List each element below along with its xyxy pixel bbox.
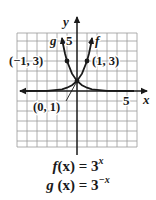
equation-g-body: (x) = 3: [54, 177, 99, 193]
equation-g-name: g: [46, 177, 54, 193]
y-axis-label: y: [61, 14, 69, 29]
point-1-3: [85, 59, 90, 64]
point-label-neg1-3: (−1, 3): [9, 54, 43, 68]
equation-g: g (x) = 3−x: [0, 176, 156, 194]
equation-g-exponent: −x: [99, 174, 110, 185]
curve-f-label: f: [95, 33, 101, 48]
point-label-0-1: (0, 1): [33, 100, 60, 114]
point-neg1-3: [65, 59, 70, 64]
equation-f-body: (x) = 3: [57, 158, 98, 174]
y-tick-5: 5: [66, 33, 73, 48]
equation-f-exponent: x: [99, 155, 104, 166]
curve-g-label: g: [49, 33, 57, 48]
equation-f: f(x) = 3x: [0, 157, 156, 175]
point-0-1: [75, 79, 80, 84]
graph: y x 5 5 g f (−1, 3) (1, 3) (0, 1): [0, 0, 156, 155]
point-label-1-3: (1, 3): [92, 54, 119, 68]
x-axis-label: x: [142, 92, 150, 107]
x-tick-5: 5: [123, 93, 130, 108]
